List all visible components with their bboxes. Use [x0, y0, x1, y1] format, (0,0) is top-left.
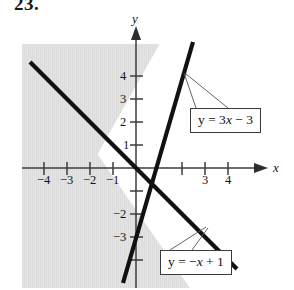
x-tick-label-minus-4: −4 [37, 174, 50, 187]
callout-leader-lines-upper [184, 73, 228, 108]
callout-text-prefix-2: y = − [168, 254, 197, 269]
graph-figure: 23. [0, 0, 294, 290]
shaded-region [22, 44, 270, 290]
y-tick-label-1: 1 [123, 139, 129, 152]
x-tick-label-3: 3 [202, 174, 208, 187]
y-axis-label: y [132, 12, 138, 25]
y-axis-arrowhead [131, 26, 141, 40]
callout-leader-lines-lower [170, 227, 208, 250]
callout-box-line-minus-x-plus-1[interactable]: y = −x + 1 [160, 250, 232, 275]
x-axis-label: x [273, 161, 279, 174]
y-tick-label-minus-2: −2 [113, 208, 126, 221]
callout-text-prefix-1: y = 3 [198, 112, 226, 127]
x-tick-label-minus-2: −2 [83, 174, 96, 187]
y-tick-label-minus-3: −3 [113, 231, 126, 244]
callout-text-suffix-1: − 3 [232, 112, 253, 127]
y-tick-label-2: 2 [120, 116, 126, 129]
x-tick-label-4: 4 [225, 174, 231, 187]
callout-text-suffix-2: + 1 [203, 254, 224, 269]
x-tick-label-minus-1: −1 [106, 174, 119, 187]
x-tick-label-minus-3: −3 [60, 174, 73, 187]
x-axis-arrowhead [254, 163, 268, 173]
y-tick-label-3: 3 [120, 93, 126, 106]
callout-box-line-3x-minus-3[interactable]: y = 3x − 3 [190, 108, 261, 133]
coordinate-plane [0, 0, 294, 290]
y-tick-label-4: 4 [120, 70, 126, 83]
